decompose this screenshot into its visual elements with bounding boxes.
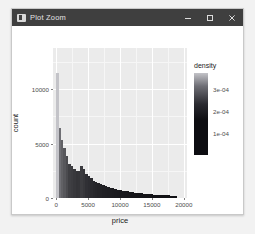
legend-title: density bbox=[194, 62, 246, 69]
x-tick-mark bbox=[120, 198, 121, 200]
histogram-bar bbox=[175, 196, 177, 198]
x-tick-mark bbox=[56, 198, 57, 200]
histogram-bars bbox=[53, 48, 187, 198]
window-titlebar[interactable]: Plot Zoom bbox=[12, 9, 243, 26]
legend-colorbar bbox=[194, 73, 208, 155]
x-tick-mark bbox=[88, 198, 89, 200]
y-axis-title: count bbox=[11, 114, 20, 132]
x-tick-label: 5000 bbox=[81, 201, 95, 208]
legend: density 3e-042e-041e-04 bbox=[194, 62, 246, 155]
y-tick-label: 0 bbox=[12, 195, 49, 202]
window-controls bbox=[177, 9, 243, 26]
plot-window: Plot Zoom 0500010000 0500010000150002000… bbox=[11, 8, 244, 215]
y-tick-mark bbox=[51, 89, 53, 90]
legend-tick-label: 3e-04 bbox=[213, 85, 229, 92]
y-tick-label: 5000 bbox=[12, 140, 49, 147]
x-tick-label: 10000 bbox=[111, 201, 128, 208]
maximize-icon[interactable] bbox=[199, 9, 221, 26]
minimize-icon[interactable] bbox=[177, 9, 199, 26]
x-axis-title: price bbox=[112, 216, 128, 225]
legend-tick-label: 1e-04 bbox=[213, 129, 229, 136]
legend-body: 3e-042e-041e-04 bbox=[194, 73, 246, 155]
x-tick-label: 0 bbox=[54, 201, 57, 208]
desktop-background: Plot Zoom 0500010000 0500010000150002000… bbox=[0, 0, 255, 234]
close-icon[interactable] bbox=[221, 9, 243, 26]
x-tick-label: 15000 bbox=[143, 201, 160, 208]
y-tick-mark bbox=[51, 144, 53, 145]
window-title: Plot Zoom bbox=[30, 9, 66, 26]
y-tick-label: 10000 bbox=[12, 86, 49, 93]
plot-window-icon bbox=[17, 14, 26, 22]
legend-tick-mark bbox=[208, 111, 210, 112]
y-tick-mark bbox=[51, 198, 53, 199]
x-tick-mark bbox=[184, 198, 185, 200]
legend-tick-label: 2e-04 bbox=[213, 107, 229, 114]
plot-panel bbox=[53, 48, 187, 198]
legend-tick-mark bbox=[208, 89, 210, 90]
legend-tick-mark bbox=[208, 133, 210, 134]
x-tick-label: 20000 bbox=[175, 201, 192, 208]
x-tick-mark bbox=[152, 198, 153, 200]
plot-canvas: 0500010000 05000100001500020000 count pr… bbox=[12, 26, 243, 214]
